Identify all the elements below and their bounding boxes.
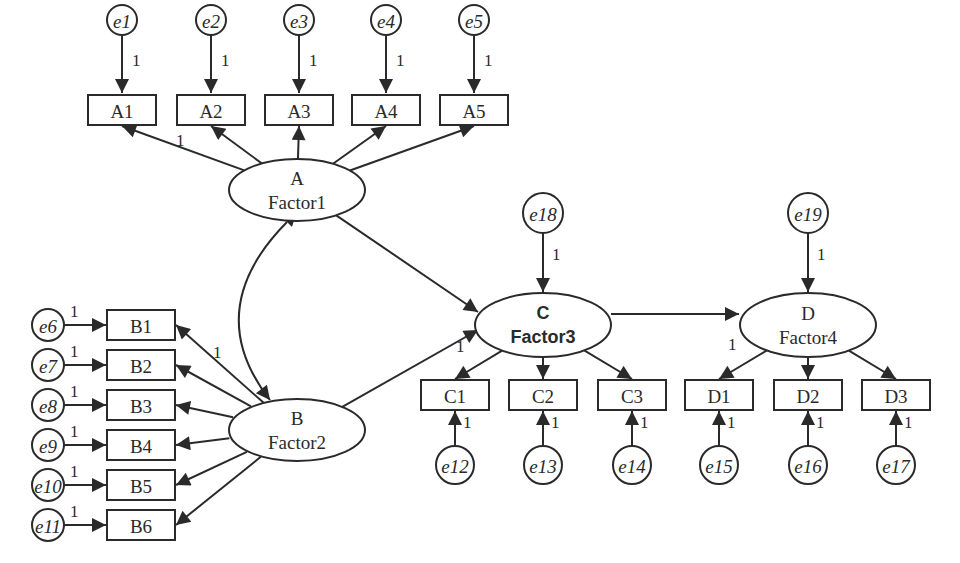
loading-arrow <box>849 351 896 379</box>
fixed-loading-label: 1 <box>213 343 222 362</box>
error-circle-e1-label: e1 <box>113 11 131 32</box>
loading-arrow <box>298 126 299 159</box>
error-circle-e10-label: e10 <box>34 476 62 497</box>
error-circle-e9-label: e9 <box>39 436 57 457</box>
indicator-box-B5-label: B5 <box>130 476 152 497</box>
indicator-box-C2-label: C2 <box>532 386 554 407</box>
loading-arrow <box>211 126 262 163</box>
indicator-box-A2-label: A2 <box>199 101 222 122</box>
indicator-box-C1-label: C1 <box>444 386 466 407</box>
error-circle-e14-label: e14 <box>618 456 646 477</box>
error-circle-e16-label: e16 <box>794 456 822 477</box>
disturbance-circle-e19-label: e19 <box>794 204 822 225</box>
disturbance-circle-e18-label: e18 <box>529 204 557 225</box>
loading-arrow <box>176 452 247 485</box>
indicator-box-D3-label: D3 <box>884 386 907 407</box>
error-circle-e13-label: e13 <box>529 456 556 477</box>
fixed-loading-label: 1 <box>552 245 561 264</box>
fixed-loading-label: 1 <box>221 51 230 70</box>
loading-arrow <box>176 438 229 445</box>
latent-factor-A-letter: A <box>290 168 304 189</box>
indicator-box-A4-label: A4 <box>374 101 398 122</box>
fixed-loading-label: 1 <box>132 51 141 70</box>
loading-arrow <box>350 126 474 171</box>
latent-factor-D-name: Factor4 <box>779 327 838 348</box>
fixed-loading-label: 1 <box>484 51 493 70</box>
fixed-loading-label: 1 <box>70 502 79 521</box>
error-circle-e7-label: e7 <box>39 356 58 377</box>
fixed-loading-label: 1 <box>70 422 79 441</box>
loading-arrow <box>176 457 261 525</box>
latent-factor-C-letter: C <box>537 303 550 323</box>
loading-arrow <box>584 350 632 379</box>
error-circle-e11-label: e11 <box>35 516 61 537</box>
fixed-loading-label: 1 <box>176 131 185 150</box>
indicator-box-B1-label: B1 <box>130 316 152 337</box>
latent-factor-C-name: Factor3 <box>510 327 575 347</box>
error-circle-e12-label: e12 <box>441 456 469 477</box>
error-circle-e8-label: e8 <box>39 396 57 417</box>
fixed-loading-label: 1 <box>904 413 913 432</box>
error-circle-e6-label: e6 <box>39 316 57 337</box>
fixed-loading-label: 1 <box>309 51 318 70</box>
indicator-box-A5-label: A5 <box>462 101 485 122</box>
loading-arrow <box>176 365 251 406</box>
sem-diagram: e11A1e21A2e31A3e41A4e51A51e61B1e71B2e81B… <box>0 0 960 563</box>
indicator-box-D2-label: D2 <box>796 386 819 407</box>
fixed-loading-label: 1 <box>817 245 826 264</box>
error-circle-e4-label: e4 <box>377 11 395 32</box>
indicator-box-B2-label: B2 <box>130 356 152 377</box>
fixed-loading-label: 1 <box>70 342 79 361</box>
error-circle-e5-label: e5 <box>465 11 483 32</box>
error-circle-e15-label: e15 <box>705 456 732 477</box>
error-circle-e3-label: e3 <box>290 11 308 32</box>
fixed-loading-label: 1 <box>816 413 825 432</box>
indicator-box-B3-label: B3 <box>130 396 152 417</box>
indicator-box-B6-label: B6 <box>130 516 152 537</box>
indicator-box-D1-label: D1 <box>707 386 730 407</box>
structural-path-A-C <box>336 215 478 312</box>
latent-factor-B-name: Factor2 <box>268 432 326 453</box>
fixed-loading-label: 1 <box>728 335 737 354</box>
loading-arrow <box>719 350 767 379</box>
error-circle-e17-label: e17 <box>882 456 911 477</box>
fixed-loading-label: 1 <box>463 413 472 432</box>
fixed-loading-label: 1 <box>70 302 79 321</box>
fixed-loading-label: 1 <box>640 413 649 432</box>
latent-factor-B-letter: B <box>291 408 304 429</box>
covariance-arrow-A-B <box>239 222 287 400</box>
loading-arrow <box>176 325 263 403</box>
loading-arrow <box>333 126 386 164</box>
indicator-box-A1-label: A1 <box>110 101 133 122</box>
fixed-loading-label: 1 <box>70 462 79 481</box>
fixed-loading-label: 1 <box>727 413 736 432</box>
fixed-loading-label: 1 <box>396 51 405 70</box>
fixed-loading-label: 1 <box>456 337 465 356</box>
fixed-loading-label: 1 <box>551 413 560 432</box>
latent-factor-A-name: Factor1 <box>268 192 326 213</box>
indicator-box-B4-label: B4 <box>130 436 153 457</box>
fixed-loading-label: 1 <box>70 382 79 401</box>
indicator-box-A3-label: A3 <box>287 101 310 122</box>
loading-arrow <box>176 405 233 417</box>
indicator-box-C3-label: C3 <box>621 386 643 407</box>
error-circle-e2-label: e2 <box>202 11 220 32</box>
latent-factor-D-letter: D <box>801 303 815 324</box>
